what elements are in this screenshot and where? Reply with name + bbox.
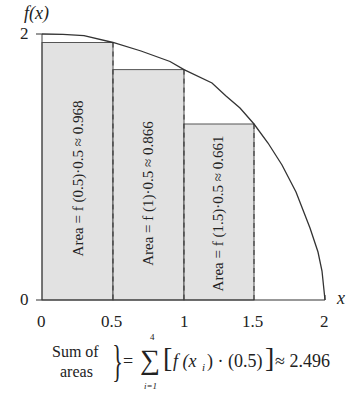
- sum-formula: Sum of areas } = 4 ∑ i=1 [ f (x i ) · (0…: [0, 338, 352, 399]
- bracket-right: ]: [265, 342, 274, 374]
- sum-of-text: Sum of: [52, 343, 99, 361]
- formula-sub: i: [202, 361, 205, 373]
- rect-1-label: Area = f (0.5)·0.5 ≈ 0.968: [70, 74, 87, 284]
- x-tick-1.5: 1.5: [242, 312, 263, 332]
- formula-body2: ) · (0.5): [207, 351, 262, 372]
- sigma-top: 4: [150, 332, 155, 342]
- x-tick-0.5: 0.5: [101, 312, 122, 332]
- chart-plot: [0, 0, 352, 340]
- sigma-bottom: i=1: [144, 381, 157, 391]
- areas-text: areas: [60, 363, 93, 381]
- bracket-left: [: [163, 342, 172, 374]
- formula-body: f (x: [173, 351, 196, 372]
- x-axis-label: x: [337, 288, 345, 309]
- y-tick-2: 2: [20, 24, 29, 44]
- y-axis-label: f(x): [24, 3, 49, 24]
- y-tick-0: 0: [20, 290, 29, 310]
- x-tick-1: 1: [180, 312, 189, 332]
- sigma-icon: ∑: [140, 344, 160, 376]
- rect-3-label: Area = f (1.5)·0.5 ≈ 0.661: [210, 109, 227, 319]
- equals: =: [123, 351, 133, 372]
- sum-value: ≈ 2.496: [275, 351, 330, 372]
- brace: }: [112, 336, 123, 387]
- x-tick-2: 2: [320, 312, 329, 332]
- rect-2-label: Area = f (1)·0.5 ≈ 0.866: [140, 89, 157, 299]
- x-tick-0: 0: [37, 312, 46, 332]
